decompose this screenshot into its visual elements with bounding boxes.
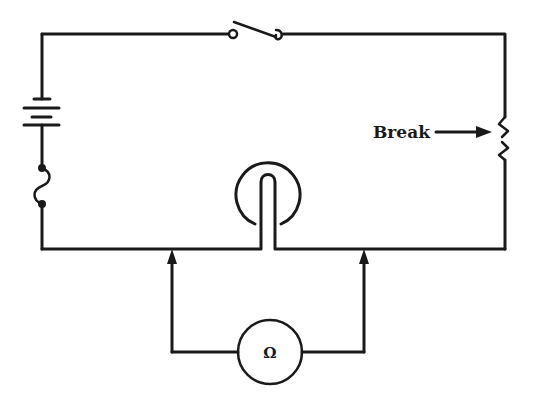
wire-top-right	[283, 34, 505, 117]
break-label: Break	[373, 122, 431, 142]
ohm-symbol: Ω	[263, 344, 276, 362]
fuse-icon	[35, 166, 50, 207]
probe-right-arrow-icon	[359, 249, 369, 264]
circuit-diagram: Break Ω	[0, 0, 534, 407]
probe-left-arrow-icon	[167, 249, 177, 264]
lamp-icon	[236, 163, 300, 224]
battery-icon	[24, 99, 59, 125]
wire-bottom	[42, 175, 505, 250]
break-arrow-head-icon	[476, 126, 492, 138]
switch-icon	[229, 22, 282, 39]
resistor-icon	[499, 117, 508, 160]
